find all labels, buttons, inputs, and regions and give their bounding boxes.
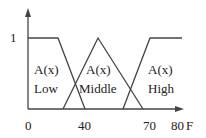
x-tick-40: 40 — [78, 118, 91, 133]
low-label-name: Low — [34, 81, 58, 96]
middle-label-ax: A(x) — [86, 62, 111, 77]
low-label-ax: A(x) — [34, 62, 59, 77]
x-axis-arrow-icon — [175, 106, 184, 112]
fuzzy-diagram: 1 A(x) Low A(x) Middle A(x) High 0 40 70… — [0, 0, 206, 138]
high-label-ax: A(x) — [148, 62, 173, 77]
middle-label-name: Middle — [79, 81, 117, 96]
x-tick-70: 70 — [143, 118, 156, 133]
x-tick-80: 80 — [171, 118, 184, 133]
high-label-name: High — [148, 81, 175, 96]
x-axis-unit: F — [186, 118, 193, 133]
x-tick-0: 0 — [25, 118, 32, 133]
y-axis-arrow-icon — [25, 8, 31, 17]
y-tick-1: 1 — [10, 30, 17, 45]
